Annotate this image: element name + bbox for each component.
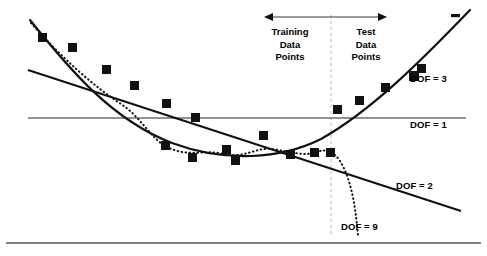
data-point xyxy=(38,33,47,42)
top-right-tick-mark xyxy=(451,14,460,17)
legend-label-dof3: DOF = 3 xyxy=(410,73,447,85)
data-point xyxy=(286,150,295,159)
data-point xyxy=(310,148,319,157)
data-point xyxy=(68,43,77,52)
legend-label-dof2: DOF = 2 xyxy=(396,180,433,192)
legend-label-dof9: DOF = 9 xyxy=(341,221,378,233)
legend-label-dof1: DOF = 1 xyxy=(410,119,447,131)
figure-container: Training Data Points Test Data Points DO… xyxy=(0,0,487,256)
arrow-right-icon xyxy=(378,13,387,21)
data-point xyxy=(231,156,240,165)
data-point xyxy=(355,96,364,105)
fit-curve-dof3 xyxy=(30,10,470,156)
data-point xyxy=(102,65,111,74)
data-point xyxy=(222,145,231,154)
data-point xyxy=(333,105,342,114)
data-point xyxy=(259,131,268,140)
data-point xyxy=(161,141,170,150)
data-point xyxy=(381,83,390,92)
arrow-left-icon xyxy=(264,13,273,21)
range-arrow xyxy=(264,13,387,21)
data-point xyxy=(162,99,171,108)
data-point xyxy=(191,113,200,122)
data-point xyxy=(130,81,139,90)
test-region-label: Test Data Points xyxy=(340,26,392,64)
data-point xyxy=(188,153,197,162)
training-region-label: Training Data Points xyxy=(259,26,321,64)
data-point xyxy=(417,64,426,73)
data-point xyxy=(326,148,335,157)
